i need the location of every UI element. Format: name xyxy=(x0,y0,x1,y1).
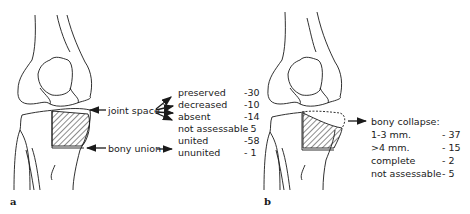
value-preserved: -30 xyxy=(244,87,260,98)
item-complete: complete xyxy=(371,155,415,166)
value-not-assessable-a: - 5 xyxy=(244,123,257,134)
value-gt-4mm: - 15 xyxy=(442,142,461,153)
item-absent: absent xyxy=(178,111,210,122)
panel-letter-a: a xyxy=(10,196,16,207)
value-ununited: - 1 xyxy=(244,147,257,158)
value-united: -58 xyxy=(244,135,260,146)
item-preserved: preserved xyxy=(178,87,226,98)
knee-diagrams xyxy=(0,0,470,214)
item-not-assessable-b: not assessable xyxy=(371,168,441,179)
knee-drawing-a xyxy=(14,15,92,190)
graft-a xyxy=(52,111,90,146)
value-decreased: -10 xyxy=(244,99,260,110)
bony-union-label: bony union xyxy=(108,143,161,154)
bony-collapse-title: bony collapse: xyxy=(371,116,440,127)
graft-b xyxy=(303,113,342,148)
item-united: united xyxy=(178,135,208,146)
item-not-assessable-a: not assessable xyxy=(178,123,248,134)
value-not-assessable-b: - 5 xyxy=(442,168,455,179)
value-1-3mm: - 37 xyxy=(442,129,461,140)
joint-space-label: joint space xyxy=(108,105,160,116)
item-gt-4mm: >4 mm. xyxy=(371,142,410,153)
item-ununited: ununited xyxy=(178,147,220,158)
item-decreased: decreased xyxy=(178,99,227,110)
panel-letter-b: b xyxy=(264,196,271,207)
item-1-3mm: 1-3 mm. xyxy=(371,129,411,140)
value-absent: -14 xyxy=(244,111,260,122)
knee-drawing-b xyxy=(264,12,342,190)
value-complete: - 2 xyxy=(442,155,455,166)
